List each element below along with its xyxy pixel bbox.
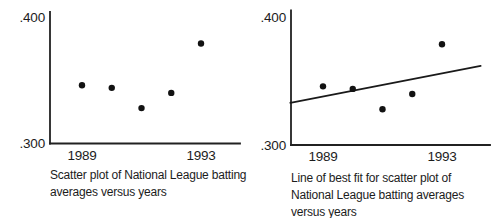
data-point <box>320 83 326 89</box>
data-point <box>198 40 204 46</box>
plots-svg: .300.40019891993.300.40019891993 <box>0 0 493 165</box>
x-tick-label: 1989 <box>308 149 337 164</box>
data-point <box>109 85 115 91</box>
data-point <box>439 41 445 47</box>
best-fit-plot-caption: Line of best fit for scatter plot of Nat… <box>291 170 481 218</box>
scatter-plot-caption: Scatter plot of National League batting … <box>50 167 258 201</box>
y-tick-label: .400 <box>261 10 286 25</box>
figure: .300.40019891993.300.40019891993 Scatter… <box>0 0 493 218</box>
y-tick-label: .300 <box>261 138 286 153</box>
data-point <box>350 86 356 92</box>
x-tick-label: 1989 <box>67 148 96 163</box>
data-point <box>138 105 144 111</box>
data-point <box>409 91 415 97</box>
data-point <box>79 82 85 88</box>
x-tick-label: 1993 <box>427 149 456 164</box>
y-tick-label: .400 <box>20 10 45 25</box>
y-tick-label: .300 <box>20 136 45 151</box>
data-point <box>168 90 174 96</box>
data-point <box>379 106 385 112</box>
best-fit-line <box>290 66 480 103</box>
x-tick-label: 1993 <box>186 148 215 163</box>
best-fit-plot-group: .300.40019891993 <box>261 10 490 164</box>
scatter-plot-group: .300.40019891993 <box>20 10 240 163</box>
